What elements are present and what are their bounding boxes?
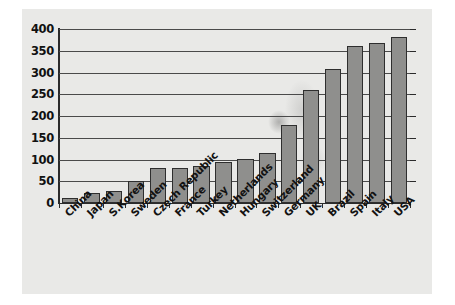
x-axis-labels: ChinaJapanS.KoreaSwedenCzech RepublicFra… xyxy=(0,0,455,305)
x-axis-label: UK xyxy=(304,199,323,218)
bar-chart-figure: 400 350 300 250 200 150 100 50 0 ChinaJa… xyxy=(0,0,455,305)
x-axis-label: USA xyxy=(392,194,416,218)
